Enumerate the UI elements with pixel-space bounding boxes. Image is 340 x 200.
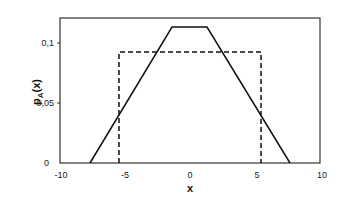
x-tick-label: 10 (317, 170, 327, 180)
y-tick-label: 0 (44, 158, 49, 168)
y-tick-label: 0,1 (41, 38, 54, 48)
x-axis-ticks: -10 -5 0 5 10 (54, 170, 327, 180)
plot-frame (60, 18, 320, 163)
chart: 0,1 0,05 0 -10 -5 0 5 10 x pA(x) (0, 0, 340, 200)
x-tick-label: 5 (254, 170, 259, 180)
series-dashed-uniform (119, 52, 261, 163)
x-axis-label: x (187, 182, 194, 194)
series-solid-trapezoid (90, 27, 290, 163)
x-tick-label: -10 (54, 170, 67, 180)
x-tick-label: 0 (187, 170, 192, 180)
x-tick-label: -5 (121, 170, 129, 180)
